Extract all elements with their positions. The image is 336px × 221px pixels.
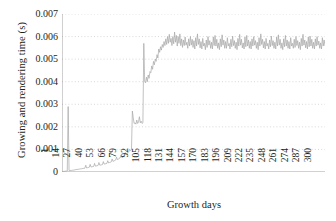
x-tick-label: 287 (291, 148, 301, 174)
x-tick-label: 196 (211, 148, 221, 174)
x-tick-label: 40 (74, 148, 84, 174)
x-tick-label: 183 (200, 148, 210, 174)
chart-figure: Growing and rendering time (s) 00.0010.0… (0, 0, 336, 221)
x-tick-label: 274 (280, 148, 290, 174)
x-tick-label: 53 (85, 148, 95, 174)
x-tick-label: 1 (40, 148, 50, 174)
x-axis-title: Growth days (62, 199, 326, 210)
x-tick-label: 248 (257, 148, 267, 174)
x-tick-label: 105 (131, 148, 141, 174)
x-tick-label: 235 (245, 148, 255, 174)
x-tick-label: 144 (165, 148, 175, 174)
x-tick-label: 66 (97, 148, 107, 174)
x-tick-label: 118 (143, 148, 153, 174)
x-axis-tick-labels: 1142740536679921051181311441571701831962… (0, 0, 336, 221)
x-tick-label: 92 (120, 148, 130, 174)
x-tick-label: 14 (51, 148, 61, 174)
x-tick-label: 79 (108, 148, 118, 174)
x-tick-label: 27 (62, 148, 72, 174)
x-tick-label: 131 (154, 148, 164, 174)
x-tick-label: 209 (223, 148, 233, 174)
x-tick-label: 157 (177, 148, 187, 174)
x-tick-label: 170 (188, 148, 198, 174)
x-tick-label: 222 (234, 148, 244, 174)
x-tick-label: 300 (303, 148, 313, 174)
x-tick-label: 261 (268, 148, 278, 174)
